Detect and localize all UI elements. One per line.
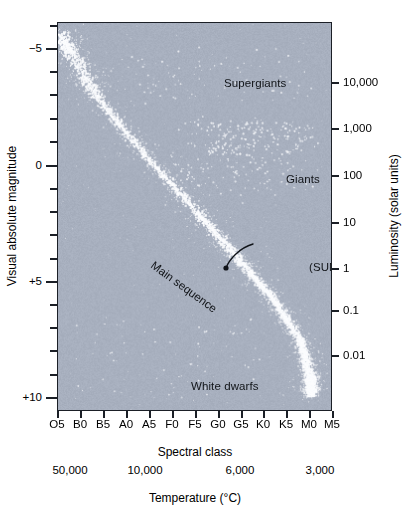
- y-tick-label-right-6: 0.01: [343, 349, 365, 361]
- x-tick-label-4: A5: [142, 418, 156, 430]
- x-tick-label-9: K0: [256, 418, 270, 430]
- x-tick-label-1: B0: [73, 418, 87, 430]
- x-axis-spectral-title: Spectral class: [158, 445, 233, 459]
- y-tick-label-right-1: 1,000: [343, 122, 372, 134]
- star-scatter-canvas: [58, 23, 331, 410]
- y-tick-left-3: [46, 397, 57, 399]
- y-tick-left-1: [46, 165, 57, 167]
- y-tick-label-left-3: +10: [6, 391, 42, 403]
- x-tick-label-0: O5: [49, 418, 64, 430]
- x-tick-2: [103, 411, 105, 418]
- y-tick-right-5: [332, 310, 339, 312]
- y-minor-tick-left-7: [50, 234, 57, 236]
- y-minor-tick-left-11: [50, 350, 57, 352]
- y-tick-left-0: [46, 48, 57, 50]
- x-tick-3: [126, 411, 128, 418]
- x-tick-label-11: M0: [301, 418, 317, 430]
- y-minor-tick-left-6: [50, 211, 57, 213]
- y-minor-tick-left-9: [50, 304, 57, 306]
- y-tick-right-6: [332, 355, 339, 357]
- x-temp-label-2: 6,000: [226, 464, 255, 476]
- y-tick-right-0: [332, 82, 339, 84]
- x-tick-label-2: B5: [96, 418, 110, 430]
- x-tick-8: [241, 411, 243, 418]
- y-tick-label-left-2: +5: [6, 275, 42, 287]
- y-minor-tick-left-4: [50, 141, 57, 143]
- y-tick-right-1: [332, 128, 339, 130]
- y-tick-label-right-0: 10,000: [343, 76, 378, 88]
- x-tick-label-12: M5: [324, 418, 340, 430]
- x-tick-label-3: A0: [119, 418, 133, 430]
- y-minor-tick-left-5: [50, 188, 57, 190]
- y-tick-label-right-2: 100: [343, 169, 362, 181]
- x-tick-10: [286, 411, 288, 418]
- region-label-giants: Giants: [286, 173, 320, 185]
- y-tick-right-4: [332, 268, 339, 270]
- x-temp-label-1: 10,000: [127, 464, 162, 476]
- x-axis-temperature-title: Temperature (°C): [149, 491, 241, 505]
- y-tick-left-2: [46, 281, 57, 283]
- y-axis-right-title: Luminosity (solar units): [387, 154, 401, 277]
- region-label-white-dwarfs: White dwarfs: [191, 380, 259, 392]
- y-minor-tick-left-8: [50, 258, 57, 260]
- x-tick-1: [80, 411, 82, 418]
- y-tick-right-2: [332, 175, 339, 177]
- x-tick-4: [149, 411, 151, 418]
- x-tick-label-6: F5: [188, 418, 201, 430]
- y-tick-label-left-0: −5: [6, 42, 42, 54]
- plot-area: Supergiants Giants White dwarfs Main seq…: [57, 22, 332, 411]
- x-temp-label-3: 3,000: [306, 464, 335, 476]
- x-tick-label-5: F0: [165, 418, 178, 430]
- x-tick-11: [309, 411, 311, 418]
- y-minor-tick-left-12: [50, 374, 57, 376]
- x-tick-7: [218, 411, 220, 418]
- y-minor-tick-left-10: [50, 327, 57, 329]
- y-tick-label-right-3: 10: [343, 216, 356, 228]
- x-tick-12: [332, 411, 334, 418]
- x-tick-0: [57, 411, 59, 418]
- y-minor-tick-left-3: [50, 118, 57, 120]
- x-tick-label-8: G5: [233, 418, 248, 430]
- y-minor-tick-left-0: [50, 25, 57, 27]
- y-tick-label-right-5: 0.1: [343, 304, 359, 316]
- x-tick-5: [172, 411, 174, 418]
- y-tick-right-3: [332, 222, 339, 224]
- region-label-supergiants: Supergiants: [224, 77, 286, 89]
- y-minor-tick-left-1: [50, 71, 57, 73]
- x-tick-label-10: K5: [279, 418, 293, 430]
- y-tick-label-right-4: 1: [343, 262, 349, 274]
- x-tick-6: [195, 411, 197, 418]
- annotation-label-sun: (SUN): [309, 261, 332, 273]
- y-tick-label-left-1: 0: [6, 159, 42, 171]
- x-tick-label-7: G0: [210, 418, 225, 430]
- x-tick-9: [263, 411, 265, 418]
- hr-diagram-figure: Supergiants Giants White dwarfs Main seq…: [0, 0, 406, 530]
- y-minor-tick-left-2: [50, 94, 57, 96]
- x-temp-label-0: 50,000: [52, 464, 87, 476]
